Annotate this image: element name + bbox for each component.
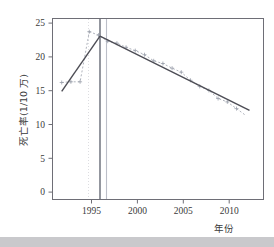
x-tick-label-1995: 1995 (82, 206, 101, 216)
y-tick-label-0: 0 (40, 187, 45, 197)
observed-marker (161, 62, 165, 66)
observed-marker (170, 66, 174, 70)
observed-marker (78, 80, 82, 84)
post-intervention-trend (100, 36, 250, 110)
y-tick-label-5: 5 (40, 154, 45, 164)
observed-marker (87, 30, 91, 34)
observed-marker (133, 49, 137, 53)
y-tick-label-15: 15 (36, 86, 46, 96)
plot-frame (53, 19, 264, 200)
y-axis: 25 20 15 10 5 0 (36, 18, 53, 197)
x-axis: 1995 2000 2005 2010 (82, 200, 239, 217)
observed-series (62, 32, 246, 116)
pre-intervention-trend (62, 36, 100, 91)
y-tick-label-25: 25 (36, 18, 46, 28)
mortality-rate-line-chart: 25 20 15 10 5 0 1995 2000 2005 2010 (0, 0, 274, 247)
observed-marker (143, 53, 147, 57)
figure-canvas: 25 20 15 10 5 0 1995 2000 2005 2010 (0, 0, 274, 247)
y-axis-title: 死亡率(1/10 万) (18, 74, 29, 146)
x-tick-label-2010: 2010 (220, 206, 239, 216)
y-tick-label-10: 10 (36, 120, 46, 130)
observed-connector-post (89, 32, 245, 116)
observed-markers (60, 30, 239, 111)
observed-marker (60, 81, 64, 85)
y-tick-label-20: 20 (36, 52, 46, 62)
x-tick-label-2000: 2000 (128, 206, 147, 216)
fitted-series (62, 36, 250, 110)
page-bottom-band (0, 237, 274, 247)
observed-marker (179, 70, 183, 74)
x-tick-label-2005: 2005 (174, 206, 193, 216)
x-axis-title: 年份 (214, 223, 234, 234)
